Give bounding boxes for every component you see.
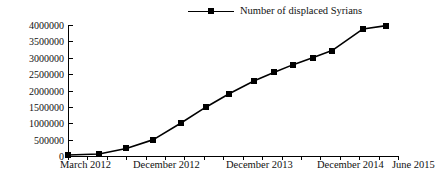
data-point-marker <box>251 78 257 84</box>
y-axis-tick-label: 2000000 <box>29 87 64 97</box>
chart-legend: Number of displaced Syrians <box>188 4 362 18</box>
legend-line-icon <box>188 11 208 12</box>
chart-figure: Number of displaced Syrians 050000010000… <box>0 0 440 186</box>
x-axis-tick <box>223 156 224 160</box>
y-axis-tick-label: 3000000 <box>29 54 64 64</box>
legend-line-icon <box>214 11 234 12</box>
data-point-marker <box>65 152 71 158</box>
x-axis-tick <box>301 156 302 160</box>
y-axis-tick-label: 4000000 <box>29 21 64 31</box>
data-point-marker <box>178 120 184 126</box>
data-point-marker <box>123 145 129 151</box>
y-axis-tick-label: 2500000 <box>29 70 64 80</box>
x-axis-tick-label: March 2012 <box>60 160 111 171</box>
y-axis-tick-label: 500000 <box>34 136 64 146</box>
x-axis-line <box>68 156 398 157</box>
data-point-marker <box>383 23 389 29</box>
x-axis-tick-label: December 2014 <box>317 160 384 171</box>
data-point-marker <box>310 55 316 61</box>
data-point-marker <box>203 104 209 110</box>
x-axis-tick <box>126 156 127 160</box>
data-point-marker <box>271 69 277 75</box>
data-point-marker <box>226 91 232 97</box>
data-point-marker <box>329 48 335 54</box>
x-axis-tick <box>204 156 205 160</box>
data-point-marker <box>96 151 102 157</box>
data-point-marker <box>290 62 296 68</box>
data-point-marker <box>360 26 366 32</box>
plot-area: 0500000100000015000002000000250000030000… <box>68 25 398 156</box>
x-axis-tick-label: December 2012 <box>133 160 200 171</box>
x-axis-tick-label: December 2013 <box>226 160 293 171</box>
y-axis-tick-label: 1500000 <box>29 103 64 113</box>
data-point-marker <box>150 137 156 143</box>
y-axis-tick-label: 1000000 <box>29 119 64 129</box>
y-axis-tick-label: 3500000 <box>29 37 64 47</box>
legend-series-label: Number of displaced Syrians <box>240 6 362 17</box>
series-line <box>68 25 398 156</box>
x-axis-tick-label: June 2015 <box>392 160 435 171</box>
